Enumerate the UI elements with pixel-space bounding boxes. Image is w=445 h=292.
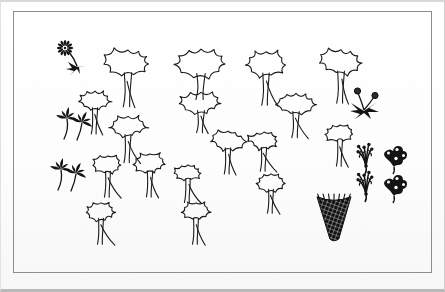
flower-symbol	[56, 107, 93, 140]
grass-tuft-symbol	[317, 194, 351, 241]
shrub-symbol	[384, 175, 407, 203]
tree-symbol	[256, 174, 285, 214]
tree-symbol	[174, 49, 225, 99]
tree-symbol	[104, 48, 149, 108]
tree-symbol	[325, 125, 353, 167]
illustration-scene: Hand-drawn landscape plan symbols	[0, 0, 445, 292]
tree-symbol	[276, 93, 317, 138]
tree-symbol	[93, 155, 121, 198]
tree-symbol	[245, 50, 285, 106]
tree-symbol	[179, 92, 221, 134]
tree-symbol	[248, 132, 277, 172]
shrub-symbol	[356, 171, 373, 202]
tree-symbol	[211, 130, 247, 175]
shrub-symbol	[384, 146, 407, 174]
tree-symbol	[86, 203, 115, 246]
flower-symbol	[350, 88, 379, 119]
tree-symbol	[181, 202, 211, 245]
tree-group	[79, 48, 362, 245]
flower-symbol	[50, 158, 87, 191]
flower-symbol	[57, 40, 86, 75]
shrub-symbol	[356, 143, 373, 174]
tree-symbol	[320, 48, 363, 104]
drawing-canvas	[0, 0, 445, 292]
tree-symbol	[174, 165, 201, 204]
tree-symbol	[79, 91, 112, 135]
